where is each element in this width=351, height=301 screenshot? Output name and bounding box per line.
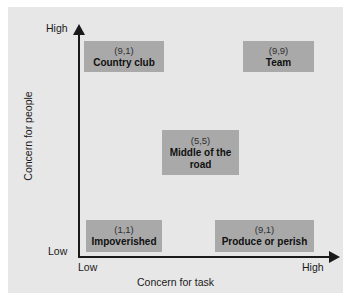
cell-coords: (9,9) bbox=[269, 45, 289, 56]
cell-label: Middle of the road bbox=[166, 147, 235, 170]
x-axis-tick-low: Low bbox=[78, 261, 97, 273]
cell-coords: (9,1) bbox=[114, 45, 134, 56]
grid-cell-produce-or-perish: (9,1) Produce or perish bbox=[215, 220, 314, 252]
cell-coords: (1,1) bbox=[114, 224, 134, 235]
x-axis-tick-high: High bbox=[302, 261, 324, 273]
y-axis-title: Concern for people bbox=[22, 66, 34, 206]
cell-label: Country club bbox=[93, 57, 155, 69]
cell-coords: (9,1) bbox=[255, 224, 275, 235]
grid-cell-middle-of-the-road: (5,5) Middle of the road bbox=[162, 130, 239, 175]
x-axis-title: Concern for task bbox=[0, 276, 351, 288]
grid-cell-team: (9,9) Team bbox=[243, 41, 314, 72]
cell-label: Impoverished bbox=[91, 236, 156, 248]
y-axis-tick-low: Low bbox=[48, 245, 67, 257]
cell-label: Team bbox=[266, 57, 291, 69]
x-axis-arrow-icon bbox=[329, 251, 340, 263]
cell-label: Produce or perish bbox=[222, 236, 308, 248]
grid-cell-country-club: (9,1) Country club bbox=[84, 41, 164, 72]
y-axis-tick-high: High bbox=[46, 22, 68, 34]
managerial-grid-figure: High Low Low High (9,1) Country club (9,… bbox=[0, 0, 351, 301]
y-axis-line bbox=[78, 34, 80, 258]
x-axis-line bbox=[78, 256, 331, 258]
cell-coords: (5,5) bbox=[191, 135, 211, 146]
y-axis-arrow-icon bbox=[73, 24, 85, 35]
chart-panel: High Low Low High (9,1) Country club (9,… bbox=[8, 7, 343, 293]
grid-cell-impoverished: (1,1) Impoverished bbox=[86, 220, 162, 252]
